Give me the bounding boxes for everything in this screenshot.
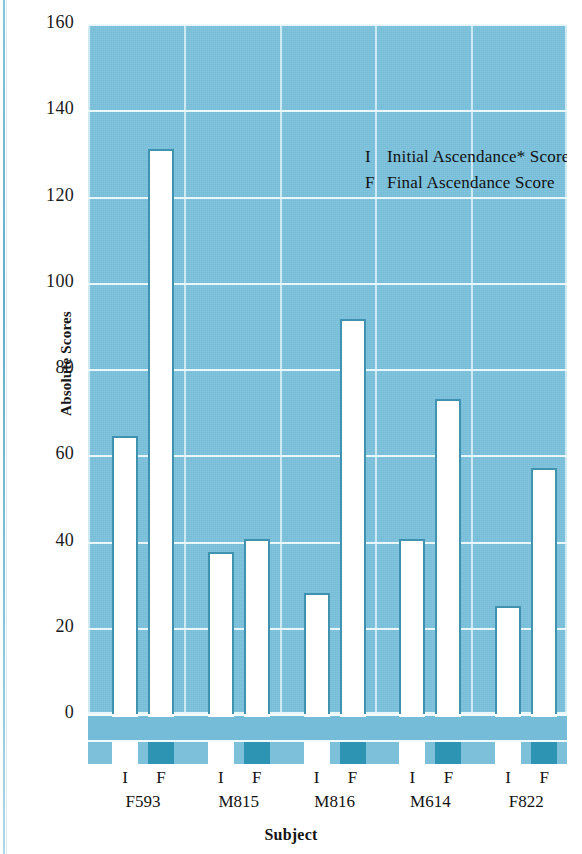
bar-M816-F[interactable] <box>340 319 366 714</box>
x-group-label-F593: F593 <box>96 792 190 812</box>
bar-M815-F[interactable] <box>244 539 270 714</box>
bar-M816-I[interactable] <box>304 593 330 714</box>
x-tick-F822-F: F <box>531 768 557 788</box>
below-axis-marker-F593-I <box>112 742 138 764</box>
below-axis-marker-M614-I <box>399 742 425 764</box>
below-axis-stub-M614-F <box>435 714 461 717</box>
legend-key-f: F <box>365 170 387 196</box>
x-tick-M815-F: F <box>244 768 270 788</box>
below-axis-stub-M614-I <box>399 714 425 717</box>
vertical-gridline-3 <box>375 24 377 714</box>
legend-key-i: I <box>365 144 387 170</box>
legend-row-final: FFinal Ascendance Score <box>365 170 567 196</box>
below-axis-band-upper <box>88 716 567 740</box>
below-axis-stub-F593-F <box>148 714 174 717</box>
below-axis-marker-M614-F <box>435 742 461 764</box>
x-group-label-M816: M816 <box>288 792 382 812</box>
plot-area: IInitial Ascendance* Score FFinal Ascend… <box>88 24 567 714</box>
x-tick-M614-F: F <box>435 768 461 788</box>
below-axis-stub-M815-F <box>244 714 270 717</box>
bar-chart-figure: 160140120100806040200 Absolute Scores II… <box>0 0 582 854</box>
gridline-160 <box>88 24 567 26</box>
x-tick-F593-I: I <box>112 768 138 788</box>
legend-label-i: Initial Ascendance* Score <box>387 147 567 166</box>
bar-M614-F[interactable] <box>435 399 461 714</box>
y-tick-160: 160 <box>18 12 74 33</box>
vertical-gridline-2 <box>280 24 282 714</box>
below-axis-marker-M816-I <box>304 742 330 764</box>
bar-M815-I[interactable] <box>208 552 234 714</box>
below-axis-marker-F822-I <box>495 742 521 764</box>
below-axis-stub-F822-I <box>495 714 521 717</box>
x-tick-M816-I: I <box>304 768 330 788</box>
vertical-gridline-5 <box>565 24 567 714</box>
below-axis-stub-M815-I <box>208 714 234 717</box>
x-axis-title: Subject <box>0 826 582 844</box>
below-axis-marker-M815-F <box>244 742 270 764</box>
y-tick-120: 120 <box>18 185 74 206</box>
x-group-label-M614: M614 <box>383 792 477 812</box>
bar-F593-I[interactable] <box>112 436 138 714</box>
below-axis-marker-M816-F <box>340 742 366 764</box>
x-tick-M816-F: F <box>340 768 366 788</box>
y-tick-40: 40 <box>18 530 74 551</box>
x-tick-F593-F: F <box>148 768 174 788</box>
gridline-140 <box>88 110 567 112</box>
below-axis-stub-M816-I <box>304 714 330 717</box>
y-tick-20: 20 <box>18 616 74 637</box>
bar-F822-F[interactable] <box>531 468 557 714</box>
bar-F593-F[interactable] <box>148 149 174 714</box>
x-tick-M614-I: I <box>399 768 425 788</box>
vertical-gridline-0 <box>88 24 90 714</box>
legend-row-initial: IInitial Ascendance* Score <box>365 144 567 170</box>
bar-F822-I[interactable] <box>495 606 521 714</box>
y-axis-title: Absolute Scores <box>58 254 75 474</box>
x-group-label-M815: M815 <box>192 792 286 812</box>
below-axis-marker-F822-F <box>531 742 557 764</box>
x-group-label-F822: F822 <box>479 792 573 812</box>
bar-M614-I[interactable] <box>399 539 425 714</box>
below-axis-marker-F593-F <box>148 742 174 764</box>
y-tick-140: 140 <box>18 98 74 119</box>
x-tick-F822-I: I <box>495 768 521 788</box>
y-tick-0: 0 <box>18 702 74 723</box>
legend-label-f: Final Ascendance Score <box>387 173 555 192</box>
below-axis-stub-F593-I <box>112 714 138 717</box>
below-axis-stub-F822-F <box>531 714 557 717</box>
vertical-gridline-1 <box>184 24 186 714</box>
below-axis-marker-M815-I <box>208 742 234 764</box>
below-axis-stub-M816-F <box>340 714 366 717</box>
x-tick-M815-I: I <box>208 768 234 788</box>
chart-legend: IInitial Ascendance* Score FFinal Ascend… <box>365 144 567 197</box>
vertical-gridline-4 <box>471 24 473 714</box>
